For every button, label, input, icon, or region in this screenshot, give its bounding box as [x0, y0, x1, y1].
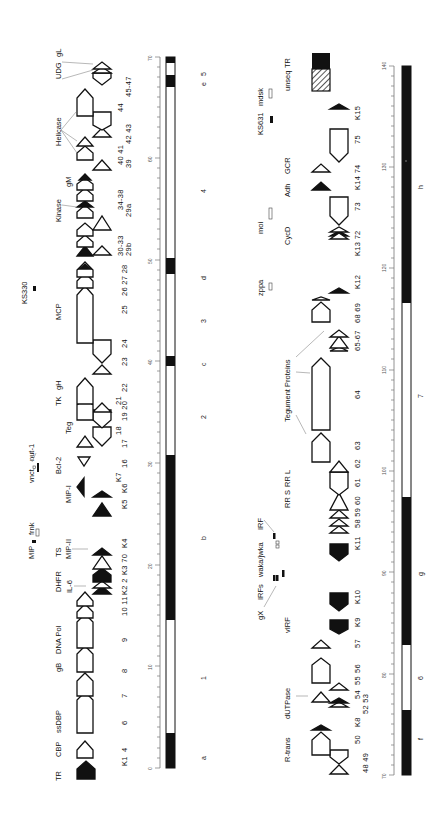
left-scale-ticks	[155, 57, 160, 768]
orf-arrow-icon	[77, 201, 93, 207]
ks330-marker-icon	[33, 286, 36, 291]
leader-line	[62, 70, 93, 79]
orf-arrow-icon	[77, 137, 93, 146]
svg-text:K6: K6	[120, 483, 129, 493]
moi-marker-icon	[269, 208, 272, 219]
orf-arrow-icon	[77, 692, 93, 733]
tr-block-icon	[77, 761, 95, 779]
orf-arrow-icon	[77, 235, 93, 247]
orf-arrow-icon	[330, 330, 348, 337]
label-gb: gB	[54, 663, 63, 672]
leader-line	[62, 62, 93, 64]
nut1-marker-icon	[33, 466, 36, 469]
orf-arrow-icon	[330, 227, 348, 232]
label-r-trans: R-trans	[283, 737, 292, 762]
svg-text:K7: K7	[114, 472, 123, 482]
svg-text:K8: K8	[353, 717, 362, 727]
label-il-6: IL-6	[65, 580, 74, 593]
orf-arrow-icon	[77, 614, 93, 648]
orf-arrow-icon	[93, 62, 111, 69]
left-gene-glyphs	[77, 62, 111, 779]
orf-arrow-icon	[93, 548, 111, 555]
label-gh: gH	[54, 380, 63, 390]
svg-text:63: 63	[353, 441, 362, 450]
unseq-block-icon	[312, 69, 330, 91]
right-region-labels: f 6 g 7 h	[417, 185, 425, 740]
label-tr: TR	[54, 770, 63, 781]
orf-arrow-icon	[77, 378, 93, 404]
svg-text:75: 75	[353, 135, 362, 144]
svg-text:44: 44	[116, 103, 125, 112]
svg-text:K14 74: K14 74	[353, 164, 362, 190]
svg-text:K1: K1	[120, 756, 129, 766]
svg-text:18: 18	[114, 426, 123, 435]
orf-arrow-icon	[93, 73, 111, 85]
svg-text:10 11: 10 11	[120, 596, 129, 616]
orf-arrow-icon	[312, 658, 330, 683]
orf-arrow-icon	[330, 197, 348, 225]
orf-arrow-icon	[312, 297, 330, 300]
orf-arrow-icon	[93, 403, 111, 412]
tick-label-130: 130	[381, 162, 387, 171]
label-mip-ii: MIP-II	[64, 539, 73, 559]
orf-arrow-icon	[79, 174, 91, 180]
label-nut-1: nut-1	[27, 444, 36, 461]
tick-label-70: 70	[381, 773, 387, 779]
svg-text:K4: K4	[120, 538, 129, 548]
leader-line	[62, 205, 77, 207]
label-teg: Teg	[64, 422, 73, 434]
region-label-1: 1	[200, 676, 207, 680]
svg-text:68 69: 68 69	[353, 303, 362, 323]
svg-text:54: 54	[353, 690, 362, 699]
tick-label-40: 40	[147, 359, 153, 365]
right-scale-ticks	[389, 66, 394, 775]
svg-text:K9: K9	[353, 617, 362, 627]
left-region-labels: a 1 b 2 c 3 d 4 e 5	[200, 72, 207, 760]
svg-text:40 41: 40 41	[116, 145, 125, 165]
orf-arrow-icon	[312, 640, 330, 648]
region-label-5: 5	[200, 72, 207, 76]
label-mcp: MCP	[54, 303, 63, 320]
svg-text:K12: K12	[353, 275, 362, 289]
orf-arrow-icon	[93, 365, 111, 374]
label-adh: Adh	[283, 184, 292, 197]
orf-arrow-icon	[77, 436, 93, 447]
tick-label-20: 20	[147, 563, 153, 569]
svg-text:73: 73	[353, 202, 362, 211]
orf-arrow-icon	[93, 112, 111, 130]
orf-arrow-icon	[330, 519, 348, 526]
orf-arrow-icon	[312, 433, 330, 462]
orf-arrow-icon	[330, 593, 348, 611]
region-label-e: e	[200, 82, 207, 86]
right-scale-labels: 70 80 90 100 110 120 130 140	[381, 61, 387, 779]
orf-arrow-icon	[77, 146, 93, 160]
label-kinase: Kinase	[54, 199, 63, 222]
left-segment-bar	[166, 57, 175, 768]
tick-label-30: 30	[147, 461, 153, 467]
orf-arrow-icon	[77, 223, 93, 236]
svg-text:7: 7	[120, 694, 129, 698]
label-irfs: IRFs	[256, 584, 265, 600]
orf-arrow-icon	[93, 216, 111, 230]
svg-text:K10: K10	[353, 590, 362, 604]
label-unseq: unseq	[283, 71, 292, 91]
orf-arrow-icon	[78, 457, 90, 466]
helicase-arrow-icon	[77, 89, 93, 116]
right-orf-numbers: 48 49 50 K8 52 53 54 55 56 57 K9 K10 K11…	[353, 106, 370, 773]
svg-text:52 53: 52 53	[361, 694, 370, 714]
right-gene-glyphs	[312, 53, 348, 774]
orf-arrow-icon	[93, 491, 111, 497]
svg-text:57: 57	[353, 639, 362, 648]
orf-arrow-icon	[93, 340, 111, 363]
left-scale-labels: 0 10 20 30 40 50 60 70	[147, 55, 153, 770]
region-label-3: 3	[200, 319, 207, 323]
orf-arrow-icon	[330, 104, 348, 109]
svg-text:34-38: 34-38	[116, 189, 125, 210]
orf-arrow-icon	[330, 461, 348, 472]
svg-text:8: 8	[120, 669, 129, 673]
tr-block-icon	[312, 53, 330, 69]
waka-marker-icon	[276, 541, 279, 544]
orf-arrow-icon	[93, 568, 111, 582]
orf-arrow-icon	[312, 182, 330, 190]
tick-label-50: 50	[147, 258, 153, 264]
